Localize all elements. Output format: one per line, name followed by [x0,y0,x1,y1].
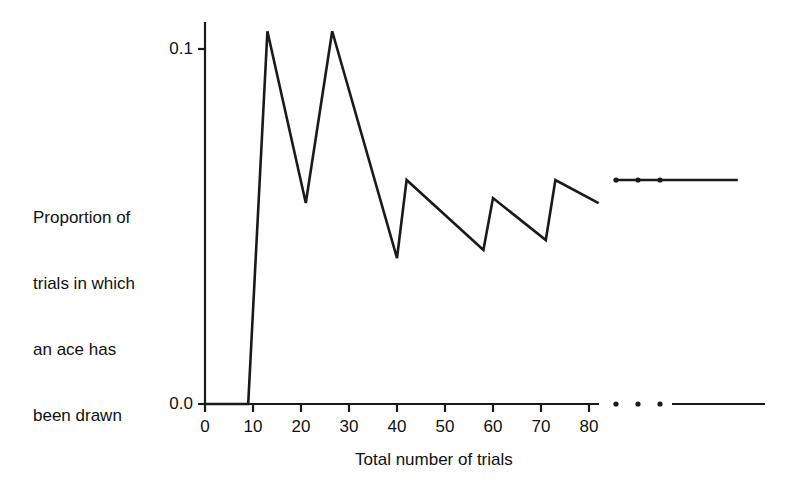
x-tick-label-80: 80 [569,417,609,437]
x-tick-label-70: 70 [521,417,561,437]
y-axis-title-line-1: Proportion of [33,207,193,229]
x-tick-label-50: 50 [425,417,465,437]
y-axis-title: Proportion of trials in which an ace has… [33,163,193,471]
x-tick-label-10: 10 [233,417,273,437]
y-axis-title-line-3: an ace has [33,339,193,361]
x-axis-break-dot-3 [657,401,662,406]
y-tick-label-1: 0.1 [135,39,193,59]
chart-figure: Proportion of trials in which an ace has… [0,0,803,492]
x-axis-break-dot-2 [635,401,640,406]
x-tick-label-0: 0 [185,417,225,437]
x-tick-label-30: 30 [329,417,369,437]
x-axis-title: Total number of trials [355,449,615,471]
y-axis-title-line-2: trials in which [33,273,193,295]
x-axis-break-dot-1 [613,401,618,406]
x-tick-label-60: 60 [473,417,513,437]
y-tick-label-0: 0.0 [135,394,193,414]
x-tick-label-20: 20 [281,417,321,437]
data-series-running-proportion [205,31,599,404]
x-tick-label-40: 40 [377,417,417,437]
